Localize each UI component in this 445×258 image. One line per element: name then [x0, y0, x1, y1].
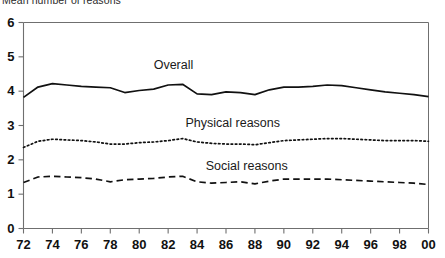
x-tick-label: 96 [358, 237, 384, 252]
y-tick-label: 2 [1, 152, 15, 167]
x-tick-label: 98 [387, 237, 413, 252]
x-tick-label: 84 [184, 237, 210, 252]
series-label-physical-reasons: Physical reasons [186, 116, 281, 130]
series-line-social-reasons [24, 176, 429, 184]
x-tick-label: 88 [242, 237, 268, 252]
x-tick-label: 94 [329, 237, 355, 252]
x-tick-label: 00 [416, 237, 442, 252]
x-tick-label: 78 [97, 237, 123, 252]
series-label-overall: Overall [154, 58, 194, 72]
x-tick-label: 90 [271, 237, 297, 252]
x-tick-label: 92 [300, 237, 326, 252]
chart-figure: Mean number of reasons 0123456 727476788… [0, 0, 445, 258]
y-tick-label: 0 [1, 221, 15, 236]
x-tick-label: 76 [68, 237, 94, 252]
y-tick-label: 4 [1, 83, 15, 98]
x-tick-label: 80 [126, 237, 152, 252]
x-tick-label: 74 [39, 237, 65, 252]
x-tick-label: 82 [155, 237, 181, 252]
series-line-overall [24, 84, 429, 98]
x-tick-label: 86 [213, 237, 239, 252]
y-tick-label: 6 [1, 15, 15, 30]
series-label-social-reasons: Social reasons [206, 159, 288, 173]
series-line-physical-reasons [24, 139, 429, 148]
x-tick-label: 72 [11, 237, 37, 252]
y-tick-label: 1 [1, 186, 15, 201]
y-tick-label: 5 [1, 49, 15, 64]
y-tick-label: 3 [1, 118, 15, 133]
